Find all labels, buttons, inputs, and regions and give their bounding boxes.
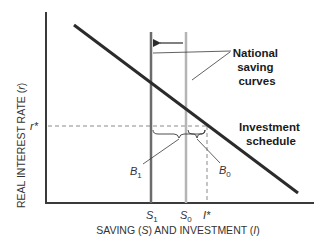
investment-schedule-label: Investment schedule <box>239 121 303 147</box>
s0-label: S0 <box>180 209 192 224</box>
leader-line-s0 <box>192 52 230 80</box>
r-star-label: r* <box>30 120 39 132</box>
i-star-label: I* <box>203 209 211 221</box>
leader-line-b1 <box>143 139 179 164</box>
leader-line-s1 <box>153 51 231 53</box>
b0-label: B0 <box>219 164 231 179</box>
national-saving-curves-label: National saving curves <box>233 47 282 87</box>
y-axis-label: REAL INTEREST RATE (r) <box>15 83 27 208</box>
s1-label: S1 <box>146 209 158 224</box>
saving-investment-diagram: REAL INTEREST RATE (r) SAVING (S) AND IN… <box>0 0 328 248</box>
leader-line-b0 <box>197 139 220 163</box>
b1-label: B1 <box>130 165 142 180</box>
x-axis-label: SAVING (S) AND INVESTMENT (I) <box>96 224 260 236</box>
